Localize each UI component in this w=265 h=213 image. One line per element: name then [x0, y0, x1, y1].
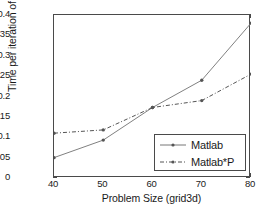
- x-tick-label: 40: [48, 179, 58, 189]
- legend-label: Matlab: [191, 139, 223, 151]
- y-tick-label: 0: [5, 172, 10, 182]
- x-tick-label: 80: [245, 179, 255, 189]
- x-tick-label: 70: [196, 179, 206, 189]
- x-axis-title: Problem Size (grid3d): [53, 192, 250, 204]
- x-tick-label: 50: [97, 179, 107, 189]
- legend-item-matlab: Matlab: [155, 136, 245, 153]
- data-point-marker: [54, 131, 56, 134]
- data-point-marker: [102, 128, 105, 131]
- legend-label: Matlab*P: [191, 156, 234, 168]
- legend-item-matlab-p: Matlab*P: [155, 153, 245, 170]
- data-point-marker: [200, 79, 203, 82]
- data-point-marker: [102, 138, 105, 141]
- legend-box: Matlab Matlab*P: [154, 134, 246, 171]
- data-point-marker: [54, 156, 56, 159]
- data-point-marker: [151, 106, 154, 109]
- series-line-matlab-p: [54, 74, 251, 133]
- y-tick-label: 0.1: [0, 132, 10, 142]
- data-point-marker: [200, 99, 203, 102]
- x-tick-label: 60: [146, 179, 156, 189]
- y-tick-label: 0.05: [0, 152, 10, 162]
- y-axis-title: Time per iteration of CG (secs): [6, 0, 18, 104]
- y-tick-label: 0.15: [0, 111, 10, 121]
- legend-sample-solid-line: [159, 139, 187, 151]
- legend-sample-dashdot-line: [159, 156, 187, 168]
- figure-canvas: 00.050.10.150.20.250.30.350.4 4050607080…: [0, 0, 265, 213]
